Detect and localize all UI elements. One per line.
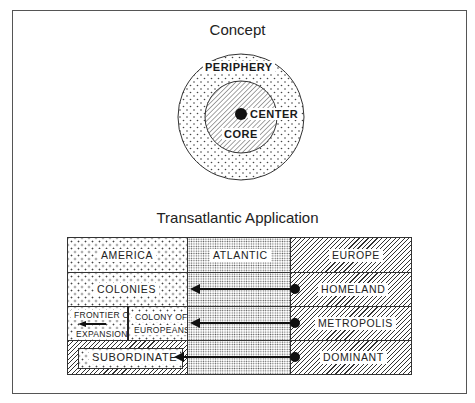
center-label: CENTER [248, 108, 300, 120]
frontier-arrow-icon [84, 323, 106, 325]
arrow-metropolis-to-colony [198, 322, 295, 324]
cell-frontier: FRONTIER OF EXPANSION [67, 306, 128, 341]
homeland-label: HOMELAND [318, 283, 388, 296]
dominant-label: DOMINANT [320, 351, 387, 364]
cell-metropolis: METROPOLIS [290, 306, 412, 341]
america-label: AMERICA [98, 249, 156, 262]
atlantic-label: ATLANTIC [210, 249, 271, 262]
metropolis-label: METROPOLIS [315, 317, 396, 330]
colonies-label: COLONIES [94, 283, 159, 296]
origin-dot-icon [290, 318, 300, 328]
center-dot [235, 108, 247, 120]
origin-dot-icon [290, 284, 300, 294]
colony-label-line2: EUROPEANS [131, 325, 193, 335]
cell-colony-of-europeans: COLONY OF EUROPEANS [127, 306, 188, 341]
arrow-dominant-to-subordinate [182, 356, 295, 358]
frontier-label-line2: EXPANSION [73, 329, 131, 339]
arrowhead-icon [174, 352, 184, 362]
cell-dominant: DOMINANT [290, 340, 412, 375]
application-title: Transatlantic Application [0, 209, 475, 226]
colony-label-line1: COLONY OF [132, 312, 191, 322]
arrow-homeland-to-colonies [198, 288, 295, 290]
origin-dot-icon [290, 352, 300, 362]
cell-colonies: COLONIES [67, 272, 188, 307]
arrowhead-icon [190, 284, 200, 294]
europe-label: EUROPE [329, 249, 383, 262]
core-label: CORE [222, 128, 260, 140]
subordinate-label: SUBORDINATE [89, 351, 180, 364]
periphery-label: PERIPHERY [203, 61, 275, 73]
cell-homeland: HOMELAND [290, 272, 412, 307]
header-atlantic: ATLANTIC [187, 237, 291, 273]
arrowhead-icon [190, 318, 200, 328]
header-america: AMERICA [67, 237, 188, 273]
header-europe: EUROPE [290, 237, 412, 273]
cell-subordinate-bg: SUBORDINATE [67, 340, 188, 375]
subordinate-box: SUBORDINATE [78, 348, 183, 369]
